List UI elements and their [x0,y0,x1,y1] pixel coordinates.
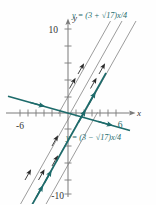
figure-canvas: y x 10 -10 -6 6 y = (3 + √17)x/4 y = (3 … [0,0,156,205]
flow-arrow-icon [52,138,57,146]
flow-arrow-icon [89,95,95,105]
upper-equation-label: y = (3 + √17)x/4 [71,11,127,20]
trajectory-line [70,21,122,114]
flow-arrow-icon [25,172,30,180]
flow-arrow-icon [91,80,96,88]
flow-arrow-icon [99,66,104,74]
x-min-tick-label: -6 [16,121,24,131]
y-max-tick-label: 10 [49,25,59,35]
axis-group [6,22,132,197]
trajectory-line [20,112,72,205]
lower-equation-label: y = (3 − √17)x/4 [65,133,121,142]
x-max-tick-label: 6 [118,120,123,130]
flow-arrow-icon [45,173,51,183]
x-axis-label: x [136,108,141,118]
flow-arrow-icon [78,66,83,74]
y-min-tick-label: -10 [51,191,64,201]
flow-arrow-icon [36,188,42,198]
plot-svg: y x 10 -10 -6 6 y = (3 + √17)x/4 y = (3 … [0,0,156,205]
flow-arrow-icon [98,121,110,124]
flow-arrow-icon [30,102,42,105]
flow-arrow-icon [39,172,44,180]
